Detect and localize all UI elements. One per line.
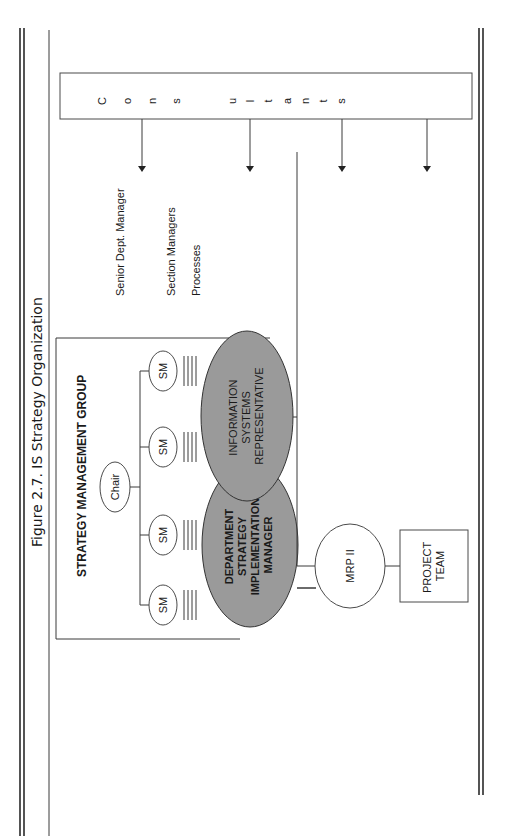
project-layer — [0, 0, 511, 836]
